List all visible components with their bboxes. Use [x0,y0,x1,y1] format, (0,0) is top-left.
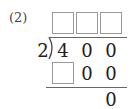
dividend-digit-ones: 0 [104,42,118,60]
division-bar [50,37,127,38]
remainder: 0 [104,91,118,109]
dividend-digit-tens: 0 [80,42,94,60]
quotient-box-hundreds[interactable] [52,12,74,34]
division-bracket-icon [48,37,56,59]
quotient-box-ones[interactable] [100,12,122,34]
product-digit-ones: 0 [104,65,118,83]
dividend-digit-hundreds: 4 [56,42,70,60]
product-box[interactable] [52,62,74,84]
subtraction-line [46,87,127,88]
quotient-box-tens[interactable] [76,12,98,34]
product-digit-tens: 0 [80,65,94,83]
problem-label: (2) [9,10,27,25]
